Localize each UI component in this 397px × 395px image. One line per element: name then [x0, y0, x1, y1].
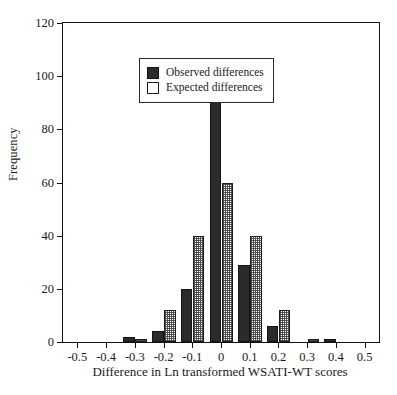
chart-legend: Observed differences Expected difference…: [139, 58, 274, 103]
x-axis-tick: [77, 342, 78, 348]
histogram-figure: Frequency 020406080100120 -0.5-0.4-0.3-0…: [0, 0, 397, 395]
x-axis-tick: [307, 342, 308, 348]
y-axis-tick-label: 20: [42, 283, 55, 296]
x-axis-tick-label: 0.1: [242, 351, 258, 364]
x-axis-tick: [278, 342, 279, 348]
x-axis-tick: [250, 342, 251, 348]
x-axis-tick-label: 0.3: [299, 351, 315, 364]
legend-swatch-expected-icon: [147, 82, 159, 94]
bar-expected: [164, 310, 176, 342]
bar-observed: [238, 265, 250, 342]
bar-observed: [181, 289, 193, 342]
bar-expected: [250, 236, 262, 342]
y-axis-tick-label: 80: [42, 123, 55, 136]
bar-observed: [123, 337, 135, 342]
bar-observed: [152, 331, 164, 342]
bar-expected: [193, 236, 205, 342]
legend-item-observed: Observed differences: [147, 67, 264, 79]
x-axis-tick-label: 0.5: [357, 351, 373, 364]
x-axis-tick-label: -0.5: [67, 351, 87, 364]
legend-label-observed: Observed differences: [166, 67, 264, 79]
x-axis-title: Difference in Ln transformed WSATI-WT sc…: [62, 364, 378, 380]
y-axis-tick-label: 100: [35, 70, 54, 83]
x-axis-tick-label: -0.1: [182, 351, 202, 364]
x-axis-tick-label: 0.2: [271, 351, 287, 364]
bar-expected: [135, 339, 147, 342]
legend-item-expected: Expected differences: [147, 82, 264, 94]
y-axis-tick-label: 60: [42, 176, 55, 189]
bar-observed: [324, 339, 336, 342]
x-axis-tick: [164, 342, 165, 348]
bar-observed: [267, 326, 279, 342]
bar-observed: [210, 66, 222, 342]
y-axis-tick-label: 40: [42, 229, 55, 242]
x-axis-tick: [365, 342, 366, 348]
y-axis-tick: [57, 342, 63, 343]
x-axis-tick: [221, 342, 222, 348]
x-axis-tick-label: 0.4: [328, 351, 344, 364]
y-axis-title: Frequency: [6, 127, 21, 181]
bar-expected: [279, 310, 291, 342]
x-axis-tick: [192, 342, 193, 348]
plot-area: 020406080100120 -0.5-0.4-0.3-0.2-0.100.1…: [62, 22, 380, 343]
bar-expected: [222, 183, 234, 343]
y-axis-tick-label: 120: [35, 17, 54, 30]
y-axis-tick-label: 0: [48, 336, 54, 349]
x-axis-tick-label: -0.2: [154, 351, 174, 364]
x-axis-tick-label: -0.3: [125, 351, 145, 364]
x-axis-tick: [336, 342, 337, 348]
x-axis-tick: [135, 342, 136, 348]
x-axis-tick-label: 0: [218, 351, 224, 364]
x-axis-tick-label: -0.4: [96, 351, 116, 364]
legend-label-expected: Expected differences: [166, 82, 263, 94]
bar-expected: [308, 339, 320, 342]
legend-swatch-observed-icon: [147, 67, 159, 79]
x-axis-tick: [106, 342, 107, 348]
